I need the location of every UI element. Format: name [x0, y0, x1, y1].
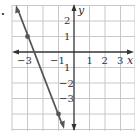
- point-neg3-1: [25, 34, 30, 39]
- y-tick--2: −2: [59, 78, 74, 89]
- coordinate-graph: . y x −3 −1 1 2 3 2 1 1 −2: [0, 0, 135, 135]
- y-tick--1: 1: [64, 62, 70, 73]
- y-tick--3: −3: [59, 93, 74, 104]
- x-tick-2: 2: [102, 55, 108, 66]
- x-axis-label: x: [127, 54, 134, 67]
- x-tick--1: −1: [50, 55, 65, 66]
- x-tick-3: 3: [117, 55, 123, 66]
- x-axis: [12, 50, 134, 55]
- y-tick-1: 1: [64, 31, 70, 42]
- x-tick--3: −3: [17, 55, 32, 66]
- problem-bullet: .: [1, 6, 5, 17]
- arrow-left-icon: [12, 50, 19, 55]
- y-axis-label: y: [77, 4, 85, 17]
- y-tick-2: 2: [64, 15, 70, 26]
- x-tick-1: 1: [87, 55, 93, 66]
- point-neg1-neg4: [56, 112, 61, 117]
